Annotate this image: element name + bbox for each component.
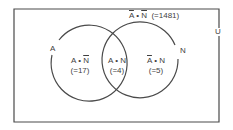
region-n-only: A • N (=5) (144, 56, 168, 76)
region-a-only: A • N (=17) (68, 56, 92, 76)
region-a-only-count: (=17) (68, 66, 92, 76)
region-n-only-count: (=5) (144, 66, 168, 76)
set-n-label: N (180, 46, 186, 55)
set-a-label: A (50, 44, 55, 53)
region-both-count: (=4) (106, 66, 128, 76)
region-neither-count: (=1481) (151, 11, 179, 20)
region-neither: A • N (=1481) (129, 11, 179, 21)
region-n-only-dot: • (154, 56, 157, 65)
region-n-only-set-b: N (159, 56, 165, 65)
region-a-only-set-a: A (71, 56, 76, 65)
region-a-only-set-b: N (83, 56, 89, 65)
universe-label: U (215, 27, 221, 36)
region-neither-dot: • (136, 11, 139, 20)
region-a-only-dot: • (78, 56, 81, 65)
region-n-only-set-a: A (147, 56, 152, 65)
region-both-set-a: A (108, 56, 113, 65)
region-both-set-b: N (120, 56, 126, 65)
region-both: A • N (=4) (106, 56, 128, 76)
region-neither-set-b: N (141, 11, 147, 20)
region-both-dot: • (115, 56, 118, 65)
region-neither-set-a: A (129, 11, 134, 20)
